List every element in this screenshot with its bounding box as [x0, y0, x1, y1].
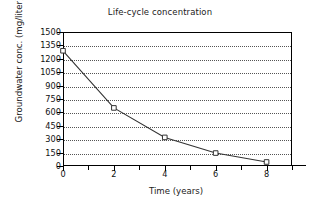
x-tick-mark-minor	[190, 166, 191, 170]
series-markers	[61, 48, 269, 164]
y-tick-label: 900	[19, 82, 61, 90]
x-tick-mark-minor	[88, 166, 89, 170]
y-tick-label: 1200	[19, 55, 61, 63]
data-series-layer	[63, 32, 292, 166]
y-tick-label: 1050	[19, 68, 61, 76]
chart-figure: Life-cycle concentration Groundwater con…	[0, 0, 320, 206]
y-tick-label: 150	[19, 149, 61, 157]
y-tick-label: 750	[19, 95, 61, 103]
x-tick-mark-major	[267, 166, 268, 171]
data-point-marker	[264, 160, 269, 165]
data-point-marker	[61, 48, 66, 53]
x-tick-mark-major	[216, 166, 217, 171]
series-line	[63, 51, 267, 162]
y-tick-label: 450	[19, 122, 61, 130]
x-tick-mark-minor	[139, 166, 140, 170]
data-point-marker	[213, 151, 218, 156]
y-tick-label: 1350	[19, 41, 61, 49]
x-tick-mark-minor	[241, 166, 242, 170]
data-point-marker	[162, 135, 167, 140]
x-tick-mark-minor	[292, 166, 293, 170]
y-tick-label: 1500	[19, 28, 61, 36]
chart-title: Life-cycle concentration	[0, 7, 320, 17]
data-point-marker	[112, 106, 117, 111]
y-tick-label: 300	[19, 135, 61, 143]
y-tick-label: 600	[19, 108, 61, 116]
x-tick-mark-major	[63, 166, 64, 171]
x-tick-mark-major	[114, 166, 115, 171]
x-tick-mark-major	[165, 166, 166, 171]
x-axis-title: Time (years)	[56, 186, 296, 196]
